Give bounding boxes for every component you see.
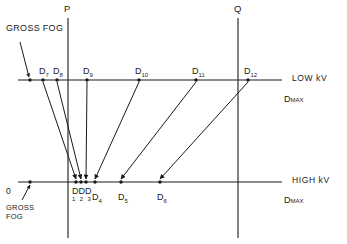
point-letter-d10: D: [135, 66, 142, 76]
point-label-d4: D4: [92, 187, 102, 203]
point-label-d8: D8: [53, 61, 63, 77]
gross-fog-label-top: GROSS FOG: [6, 24, 63, 33]
point-high-kv-d5: [119, 180, 122, 183]
point-subscript-d9: 9: [90, 72, 93, 78]
dmax-sub-bot: MAX: [291, 198, 304, 204]
point-high-kv-d3: [84, 180, 87, 183]
mapping-arrow-d12-to-d6: [160, 82, 248, 179]
point-low-kv-d9: [85, 78, 88, 81]
point-letter-d4: D: [92, 192, 99, 202]
point-letter-d12: D: [244, 66, 251, 76]
gross-fog-label-bottom: GROSS FOG: [6, 203, 34, 221]
point-high-kv-fog: [28, 180, 31, 183]
point-letter-d9: D: [83, 66, 90, 76]
point-subscript-d11: 11: [199, 72, 205, 78]
point-label-d7: D7: [39, 61, 49, 77]
dmax-sub-top: MAX: [291, 97, 304, 103]
point-high-kv-d1: [74, 180, 77, 183]
point-label-d10: D10: [135, 61, 148, 77]
diagram-vector-layer: [0, 0, 347, 244]
zero-label: 0: [6, 187, 11, 196]
gross-fog-line1: GROSS: [6, 203, 34, 212]
point-letter-d8: D: [53, 66, 60, 76]
point-cluster-subscripts: 1 2 3: [72, 196, 92, 202]
point-low-kv-d12: [246, 78, 249, 81]
mapping-arrow-d7-to-d1: [43, 82, 76, 179]
point-label-d12: D12: [244, 61, 257, 77]
point-low-kv-d10: [137, 78, 140, 81]
mapping-arrow-d9-to-d3: [86, 82, 87, 179]
point-letter-d11: D: [192, 66, 199, 76]
point-low-kv-fog: [28, 78, 31, 81]
guide-label-q: Q: [234, 4, 242, 14]
axis-label-low-kv: LOW kV: [292, 74, 327, 83]
point-subscript-d4: 4: [99, 198, 102, 204]
point-letter-d7: D: [39, 66, 46, 76]
point-low-kv-d11: [194, 78, 197, 81]
point-subscript-d8: 8: [60, 72, 63, 78]
gross-fog-line2: FOG: [6, 212, 34, 221]
gross-fog-arrow-bottom: [22, 185, 30, 200]
point-high-kv-d2: [79, 180, 82, 183]
point-letter-d6: D: [157, 192, 164, 202]
mapping-arrow-d8-to-d2: [57, 82, 81, 179]
dmax-label-high-kv: DMAX: [284, 190, 304, 206]
point-subscript-d10: 10: [142, 72, 149, 78]
diagram-canvas: P Q LOW kV HIGH kV DMAX DMAX GROSS FOG G…: [0, 0, 347, 244]
point-label-d11: D11: [192, 61, 205, 77]
point-high-kv-d6: [158, 180, 161, 183]
point-low-kv-d8: [55, 78, 58, 81]
point-label-d6: D6: [157, 187, 167, 203]
point-high-kv-d4: [93, 180, 96, 183]
axis-label-high-kv: HIGH kV: [292, 176, 330, 185]
point-subscript-d5: 5: [125, 198, 128, 204]
point-label-d5: D5: [118, 187, 128, 203]
dmax-label-low-kv: DMAX: [284, 89, 304, 105]
point-label-d9: D9: [83, 61, 93, 77]
point-cluster-d1-d2-d3: DDD: [72, 187, 92, 196]
point-subscript-d6: 6: [164, 198, 167, 204]
point-low-kv-d7: [41, 78, 44, 81]
guide-label-p: P: [64, 4, 71, 14]
gross-fog-arrow-top: [20, 42, 29, 77]
point-subscript-d7: 7: [46, 72, 49, 78]
point-subscript-d12: 12: [251, 72, 258, 78]
point-letter-d5: D: [118, 192, 125, 202]
